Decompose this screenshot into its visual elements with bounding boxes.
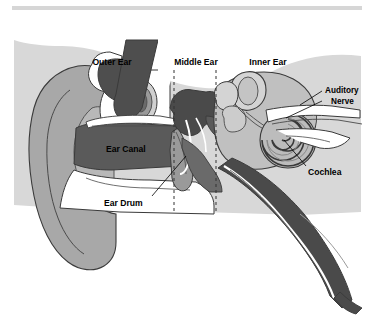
part-label-auditory-nerve-line1: Auditory [325,86,359,95]
region-label-outer-ear: Outer Ear [92,57,132,67]
region-label-inner-ear: Inner Ear [249,57,287,67]
part-label-cochlea: Cochlea [308,167,342,177]
part-label-auditory-nerve-line2: Nerve [331,97,354,106]
ear-anatomy-diagram: Outer Ear Middle Ear Inner Ear Ear Canal… [0,0,375,317]
region-label-middle-ear: Middle Ear [174,57,218,67]
figure-page: Outer Ear Middle Ear Inner Ear Ear Canal… [0,0,375,317]
part-label-ear-canal: Ear Canal [106,144,146,154]
part-label-ear-drum: Ear Drum [104,198,143,208]
ear-canal [74,115,182,170]
